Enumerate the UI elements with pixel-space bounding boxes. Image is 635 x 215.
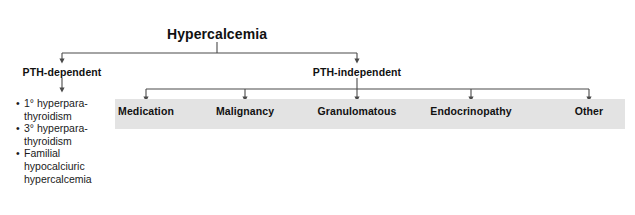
cause-line: 3° hyperpara-	[24, 122, 88, 134]
cause-line: thyroidism	[24, 135, 72, 147]
category-medication: Medication	[118, 105, 174, 117]
category-malignancy: Malignancy	[216, 105, 274, 117]
category-other: Other	[575, 105, 604, 117]
list-item: 1° hyperpara- thyroidism	[16, 97, 112, 122]
pth-dependent-cause-list: 1° hyperpara- thyroidism 3° hyperpara- t…	[16, 97, 112, 185]
cause-line: hypocalciuric	[24, 160, 85, 172]
diagram-root-title: Hypercalcemia	[167, 26, 267, 42]
cause-line: thyroidism	[24, 110, 72, 122]
cause-line: Familial	[24, 147, 60, 159]
branch-label-pth-dependent: PTH-dependent	[23, 66, 102, 78]
category-endocrinopathy: Endocrinopathy	[430, 105, 511, 117]
cause-line: 1° hyperpara-	[24, 97, 88, 109]
list-item: Familial hypocalciuric hypercalcemia	[16, 147, 112, 185]
list-item: 3° hyperpara- thyroidism	[16, 122, 112, 147]
cause-line: hypercalcemia	[24, 173, 92, 185]
hypercalcemia-flowchart: Hypercalcemia PTH-dependent PTH-independ…	[0, 0, 635, 215]
category-granulomatous: Granulomatous	[318, 105, 397, 117]
branch-label-pth-independent: PTH-independent	[313, 66, 401, 78]
bottom-clip-fade	[0, 192, 635, 215]
